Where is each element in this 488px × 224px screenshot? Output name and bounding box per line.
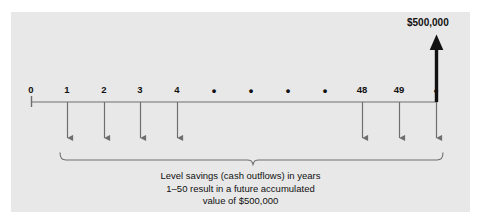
outflow-brace — [60, 153, 443, 165]
timeline-year-label-0: 0 — [16, 84, 46, 95]
timeline-ellipsis-dot: • — [273, 83, 303, 98]
timeline-ellipsis-dot: • — [236, 83, 266, 98]
timeline-ellipsis-dot: • — [310, 83, 340, 98]
timeline-year-label-48: 48 — [347, 84, 377, 95]
cash-outflow-arrows — [68, 102, 437, 138]
timeline-ellipsis-dot: • — [421, 83, 451, 98]
caption-line-2: 1–50 result in a future accumulated — [11, 183, 470, 196]
timeline-year-label-3: 3 — [125, 84, 155, 95]
future-value-label: $500,000 — [407, 17, 449, 28]
caption-line-1: Level savings (cash outflows) in years — [11, 170, 470, 183]
timeline-year-label-4: 4 — [162, 84, 192, 95]
timeline-year-label-49: 49 — [384, 84, 414, 95]
timeline-year-label-1: 1 — [52, 84, 82, 95]
timeline-ellipsis-dot: • — [199, 83, 229, 98]
figure-caption: Level savings (cash outflows) in years 1… — [11, 170, 470, 208]
cash-flow-timeline-figure: 01234••••4849• $500,000 Level savings (c… — [0, 0, 488, 224]
timeline-year-label-2: 2 — [89, 84, 119, 95]
caption-line-3: value of $500,000 — [11, 195, 470, 208]
